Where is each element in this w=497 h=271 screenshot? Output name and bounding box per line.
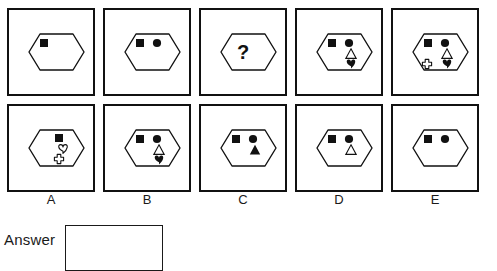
option-label-d: D: [295, 193, 383, 207]
answer-input[interactable]: [65, 225, 163, 271]
answer-row: Answer: [0, 218, 497, 261]
option-label-a: A: [7, 193, 95, 207]
sequence-cell-missing: ?: [199, 8, 287, 96]
option-a[interactable]: [7, 104, 95, 192]
sequence-cell-5: [391, 8, 479, 96]
option-label-b: B: [103, 193, 191, 207]
sequence-cell-2: [103, 8, 191, 96]
sequence-cell-1: [7, 8, 95, 96]
sequence-cell-4: [295, 8, 383, 96]
option-b[interactable]: [103, 104, 191, 192]
option-c[interactable]: [199, 104, 287, 192]
option-e[interactable]: [391, 104, 479, 192]
answer-label: Answer: [4, 231, 55, 248]
option-label-c: C: [199, 193, 287, 207]
option-d[interactable]: [295, 104, 383, 192]
svg-text:?: ?: [237, 41, 249, 63]
option-label-e: E: [391, 193, 479, 207]
